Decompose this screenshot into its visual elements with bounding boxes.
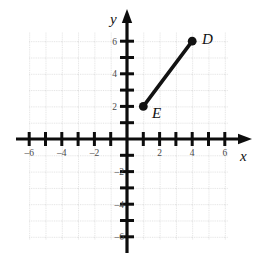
- point-e-marker: [139, 102, 148, 111]
- x-axis-arrowhead: [238, 134, 252, 144]
- x-tick-label-4: 4: [190, 148, 195, 158]
- y-tick-label-neg2: –2: [114, 167, 125, 177]
- y-tick-label-4: 4: [112, 69, 117, 79]
- y-tick-label-6: 6: [112, 37, 117, 47]
- point-d-label: D: [201, 31, 213, 47]
- y-tick-label-neg4: –4: [114, 200, 125, 210]
- x-tick-label-2: 2: [157, 148, 162, 158]
- x-tick-label-neg6: –6: [23, 148, 34, 158]
- y-axis-arrowhead: [122, 9, 132, 23]
- point-d-marker: [188, 37, 197, 46]
- y-tick-label-2: 2: [112, 102, 117, 112]
- y-axis-label: y: [108, 11, 117, 27]
- x-tick-label-6: 6: [222, 148, 227, 158]
- x-tick-label-neg4: –4: [56, 148, 67, 158]
- coordinate-plane-figure: –6 –4 –2 2 4 6 6 4 2 –2 –4 –6 x y D E: [0, 0, 266, 263]
- x-tick-label-neg2: –2: [89, 148, 100, 158]
- coordinate-plane-svg: –6 –4 –2 2 4 6 6 4 2 –2 –4 –6 x y D E: [0, 0, 266, 263]
- point-e-label: E: [151, 105, 161, 121]
- x-axis-label: x: [239, 148, 247, 164]
- y-tick-label-neg6: –6: [114, 232, 125, 242]
